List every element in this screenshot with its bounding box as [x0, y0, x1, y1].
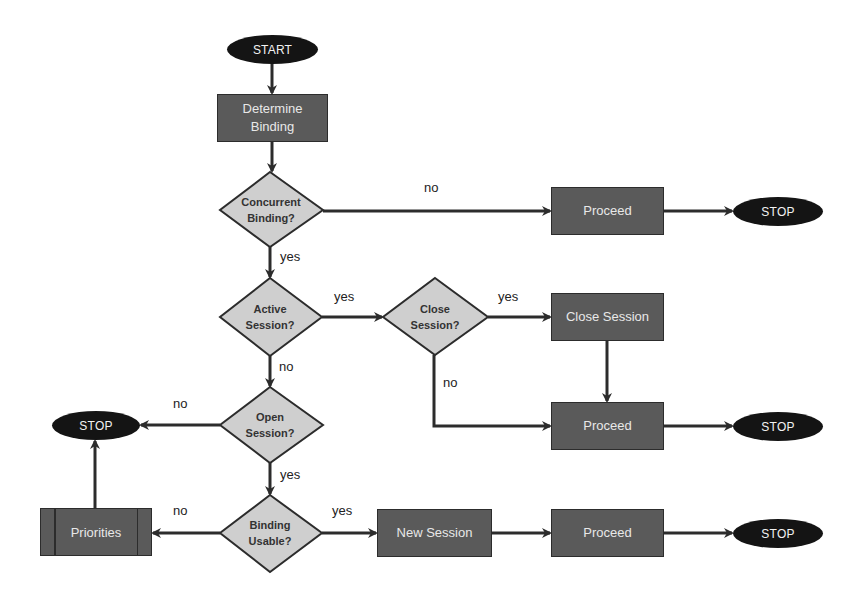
process-label: Close Session — [566, 308, 649, 326]
stop-terminal-top: STOP — [733, 197, 823, 226]
edge-label-open-yes: yes — [280, 467, 300, 482]
start-terminal: START — [227, 35, 318, 64]
edge-label-concurrent-yes: yes — [280, 249, 300, 264]
edge-label-close-q-no: no — [443, 375, 457, 390]
start-label: START — [253, 43, 292, 57]
process-new-session: New Session — [377, 509, 492, 557]
edge-label-usable-no: no — [173, 503, 187, 518]
decision-label-active-session: Active Session? — [232, 300, 308, 334]
edge-label-active-yes: yes — [334, 289, 354, 304]
edge-label-concurrent-no: no — [424, 180, 438, 195]
process-label: Proceed — [583, 524, 631, 542]
decision-label-open-session: Open Session? — [232, 408, 308, 442]
process-proceed-top: Proceed — [551, 187, 664, 235]
edge-label-active-no: no — [279, 359, 293, 374]
process-label: Determine Binding — [222, 100, 323, 136]
stop-label: STOP — [761, 205, 794, 219]
process-proceed-bottom: Proceed — [551, 509, 664, 557]
edge-label-close-q-yes: yes — [498, 289, 518, 304]
edge-close-q-no — [434, 355, 550, 426]
stop-terminal-middle: STOP — [733, 412, 823, 441]
process-proceed-middle: Proceed — [551, 402, 664, 450]
stop-label: STOP — [79, 419, 112, 433]
process-determine-binding: Determine Binding — [217, 94, 328, 142]
decision-label-binding-usable: Binding Usable? — [232, 516, 308, 550]
process-label: Proceed — [583, 202, 631, 220]
process-label: Priorities — [71, 525, 122, 540]
process-label: Proceed — [583, 417, 631, 435]
stop-terminal-bottom: STOP — [733, 519, 823, 548]
stop-label: STOP — [761, 527, 794, 541]
process-label: New Session — [397, 524, 473, 542]
process-close-session: Close Session — [551, 293, 664, 341]
stop-label: STOP — [761, 420, 794, 434]
predefined-process-priorities: Priorities — [40, 508, 152, 556]
decision-label-concurrent-binding: Concurrent Binding? — [225, 193, 317, 227]
edge-label-usable-yes: yes — [332, 503, 352, 518]
stop-terminal-left: STOP — [52, 411, 140, 440]
flowchart-canvas: START STOP STOP STOP STOP Determine Bind… — [0, 0, 853, 603]
edge-label-open-no: no — [173, 396, 187, 411]
decision-label-close-session: Close Session? — [397, 300, 473, 334]
